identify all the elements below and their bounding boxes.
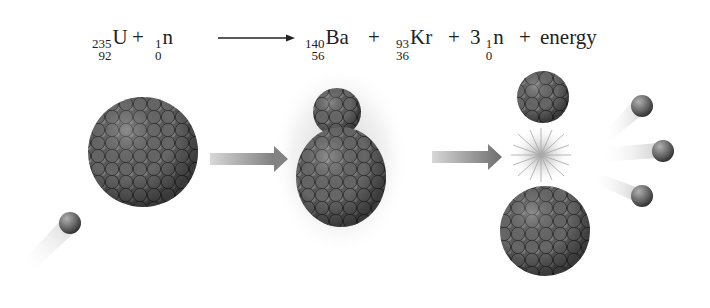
incoming-neutron — [22, 212, 81, 270]
energy-flash-icon — [511, 125, 571, 185]
released-neutrons — [592, 95, 674, 207]
process-arrow-2-icon — [432, 144, 502, 170]
uranium-nucleus — [88, 97, 198, 207]
barium-nucleus — [500, 186, 590, 276]
fission-illustration — [0, 0, 710, 308]
krypton-nucleus — [517, 71, 569, 123]
compound-nucleus — [272, 65, 408, 255]
